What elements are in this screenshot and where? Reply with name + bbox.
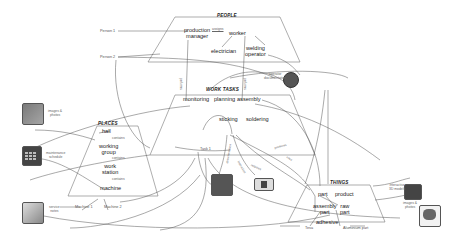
media-label-interactive-3d-models: interactive 3D models bbox=[389, 183, 405, 191]
node-assembly[interactable]: assembly bbox=[237, 96, 261, 102]
node-adhesive[interactable]: adhesive bbox=[316, 219, 338, 225]
node-assembly-part[interactable]: assembly part bbox=[313, 203, 337, 215]
instance-person-1[interactable]: Person 1 bbox=[100, 29, 115, 33]
node-machine[interactable]: machine bbox=[100, 185, 121, 191]
media-label-images-photos-right: images & photos bbox=[403, 201, 417, 209]
node-welding-operator[interactable]: welding operator bbox=[245, 45, 266, 57]
places-title: PLACES bbox=[98, 121, 118, 126]
node-work-station[interactable]: work station bbox=[102, 163, 118, 175]
media-label-maintenance-schedule: maintenance schedule bbox=[46, 151, 65, 159]
instance-tesa[interactable]: Tesa bbox=[305, 226, 313, 230]
node-planning[interactable]: planning bbox=[214, 96, 235, 102]
edge-label-assigns: assigns bbox=[212, 27, 224, 31]
node-sticking[interactable]: sticking bbox=[219, 116, 238, 122]
instance-aluminium-part[interactable]: Aluminium part bbox=[343, 226, 368, 230]
edge-label-contains-1: contains bbox=[112, 136, 125, 140]
node-product[interactable]: product bbox=[335, 191, 354, 197]
3d-model-monitor-thumbnail[interactable] bbox=[404, 184, 422, 200]
things-title: THINGS bbox=[330, 180, 349, 185]
calendar-icon[interactable] bbox=[22, 146, 42, 166]
documentation-image-thumbnail[interactable] bbox=[211, 174, 233, 196]
node-working-group[interactable]: working group bbox=[99, 143, 118, 155]
media-label-operator-documentation: operator documentation bbox=[264, 72, 286, 80]
service-notes-thumbnail[interactable] bbox=[22, 202, 44, 224]
instance-task-1[interactable]: Task 1 bbox=[200, 147, 211, 151]
connection-label-performs: performs bbox=[179, 78, 183, 90]
node-hall[interactable]: hall bbox=[102, 128, 111, 134]
edge-label-contains-2: contains bbox=[112, 156, 125, 160]
edge-label-contains-3: contains bbox=[112, 177, 125, 181]
node-monitoring[interactable]: monitoring bbox=[183, 96, 209, 102]
work-tasks-title: WORK TASKS bbox=[206, 87, 239, 92]
instruction-image-thumbnail[interactable] bbox=[254, 178, 274, 191]
node-soldering[interactable]: soldering bbox=[246, 116, 269, 122]
media-label-images-photos-left: images & photos bbox=[48, 109, 62, 117]
node-raw-part[interactable]: raw part bbox=[340, 203, 350, 215]
node-production-manager[interactable]: production manager bbox=[184, 27, 210, 39]
node-part[interactable]: part bbox=[318, 191, 328, 197]
instance-machine-1[interactable]: Machine 1 bbox=[75, 205, 93, 209]
work-tasks-region bbox=[150, 95, 315, 155]
images-photos-thumbnail-right[interactable] bbox=[419, 205, 441, 227]
node-worker[interactable]: worker bbox=[229, 30, 246, 36]
instance-machine-2[interactable]: Machine 2 bbox=[104, 205, 122, 209]
people-title: PEOPLE bbox=[217, 13, 237, 18]
people-region bbox=[148, 17, 300, 62]
node-electrician[interactable]: electrician bbox=[211, 48, 236, 54]
media-label-service-notes: service notes bbox=[49, 205, 60, 213]
connection-label-performs-2: performs bbox=[243, 78, 247, 90]
instance-person-2[interactable]: Person 2 bbox=[100, 55, 115, 59]
images-photos-thumbnail-left[interactable] bbox=[22, 103, 44, 125]
